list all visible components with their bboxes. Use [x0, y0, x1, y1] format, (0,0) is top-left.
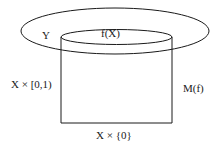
- label-fx: f(X): [101, 27, 120, 39]
- label-y: Y: [42, 29, 50, 41]
- label-cylinder-side: X × [0,1): [11, 78, 52, 90]
- label-base: X × {0}: [96, 129, 132, 141]
- mapping-cylinder-diagram: Y f(X) X × [0,1) M(f) X × {0}: [0, 0, 219, 147]
- diagram-shapes: [0, 0, 219, 147]
- label-mf: M(f): [183, 82, 204, 94]
